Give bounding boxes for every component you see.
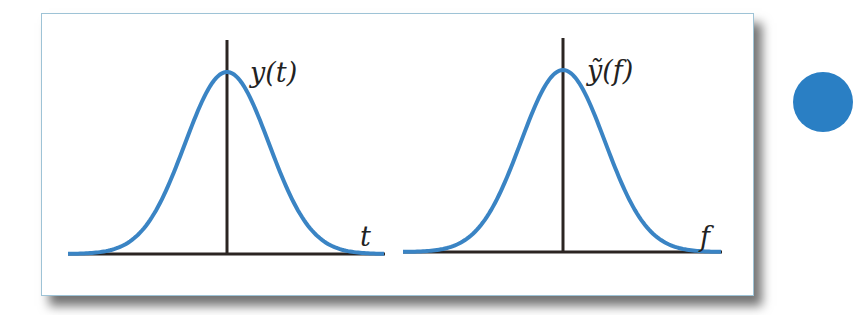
side-marker-circle <box>793 72 853 132</box>
label-y-of-t: y(t) <box>249 57 297 88</box>
panel-time: y(t) t <box>68 40 385 254</box>
panel-frequency: ỹ(f) f <box>403 38 722 252</box>
label-y-tilde-of-f: ỹ(f) <box>586 55 633 86</box>
label-t: t <box>360 221 371 252</box>
label-f: f <box>698 221 714 252</box>
